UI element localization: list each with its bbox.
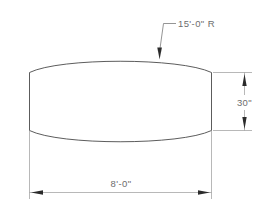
radius-callout-label: 15'-0" R: [178, 18, 215, 29]
radius-leader-arrowhead: [157, 48, 162, 60]
width-arrowhead-left: [31, 190, 43, 194]
height-dimension-label: 30": [237, 97, 252, 108]
width-dimension-label: 8'-0": [111, 178, 132, 189]
height-arrowhead-bottom: [242, 117, 246, 129]
cad-drawing-svg: 15'-0" R 30" 8'-0": [0, 0, 269, 217]
technical-drawing-canvas: 15'-0" R 30" 8'-0": [0, 0, 269, 217]
width-arrowhead-right: [198, 190, 210, 194]
radius-leader-line: [160, 24, 177, 53]
barrel-outline: [30, 61, 212, 142]
height-arrowhead-top: [242, 74, 246, 86]
